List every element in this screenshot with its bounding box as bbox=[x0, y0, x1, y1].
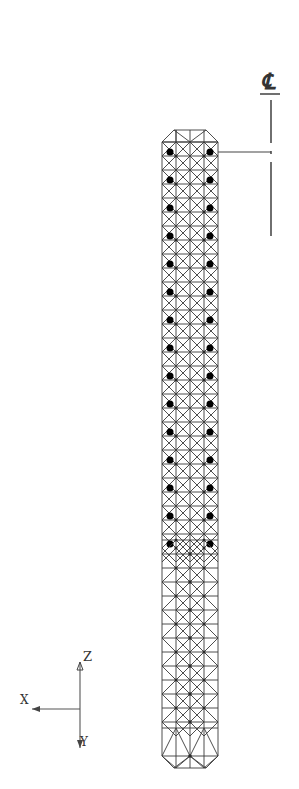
wireframe-diagram bbox=[0, 0, 299, 789]
centerline-symbol: ℄ bbox=[261, 70, 275, 92]
column-mesh bbox=[162, 130, 218, 768]
axis-label-x: X bbox=[20, 694, 29, 706]
axis-label-y: Y bbox=[80, 736, 88, 748]
centerline-marker bbox=[260, 94, 280, 236]
axis-triad bbox=[32, 662, 83, 748]
axis-label-z: Z bbox=[83, 650, 92, 663]
